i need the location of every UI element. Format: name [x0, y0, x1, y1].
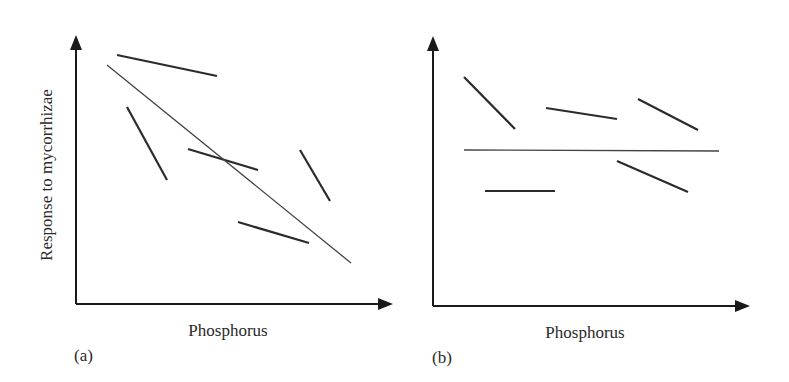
arrow-right-icon [735, 300, 750, 312]
panel-label: (b) [432, 348, 452, 367]
x-axis [76, 298, 393, 310]
regression-line [107, 65, 351, 263]
x-axis [433, 300, 750, 312]
response-segment-2 [546, 108, 617, 119]
response-segment-4 [300, 150, 330, 201]
response-segment-1 [117, 55, 217, 76]
arrow-up-icon [70, 35, 82, 50]
response-segment-5 [238, 222, 309, 243]
regression-line [464, 150, 719, 151]
y-axis-label: Response to mycorrhizae [37, 89, 56, 261]
x-axis-label: Phosphorus [545, 323, 624, 342]
response-segment-4 [617, 161, 688, 192]
panel-label: (a) [74, 346, 93, 365]
response-segments [464, 77, 698, 192]
figure: Response to mycorrhizae Phosphorus (a) P… [0, 0, 789, 382]
response-segment-3 [638, 99, 698, 130]
y-axis [427, 36, 439, 306]
arrow-right-icon [378, 298, 393, 310]
response-segments [117, 55, 330, 243]
x-axis-label: Phosphorus [188, 321, 267, 340]
panel-b: Phosphorus (b) [427, 36, 750, 367]
response-segment-2 [127, 107, 167, 180]
arrow-up-icon [427, 36, 439, 51]
response-segment-1 [464, 77, 515, 129]
y-axis [70, 35, 82, 304]
panel-a: Response to mycorrhizae Phosphorus (a) [37, 35, 393, 365]
